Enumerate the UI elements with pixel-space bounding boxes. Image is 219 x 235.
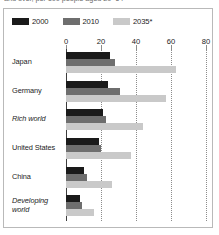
chart-legend: 200020102035* — [12, 15, 208, 27]
x-tick-mark — [101, 45, 102, 49]
x-tick-mark — [171, 45, 172, 49]
legend-item: 2010 — [63, 17, 100, 26]
bar — [66, 195, 80, 202]
category-label: China — [12, 173, 66, 182]
legend-label: 2035* — [133, 17, 152, 26]
legend-item: 2000 — [12, 17, 49, 26]
clipped-caption: and over, per 100 people aged 20–64 — [4, 0, 215, 4]
x-tick-mark — [206, 45, 207, 49]
bar — [66, 59, 115, 66]
bar-group — [66, 138, 206, 159]
legend-label: 2010 — [83, 17, 100, 26]
bar — [66, 88, 120, 95]
bar-group — [66, 195, 206, 216]
legend-label: 2000 — [32, 17, 49, 26]
category-label: Japan — [12, 58, 66, 67]
category-label: United States — [12, 144, 66, 153]
bar — [66, 209, 94, 216]
bar — [66, 109, 103, 116]
bar — [66, 202, 82, 209]
x-tick-mark — [66, 45, 67, 49]
legend-item: 2035* — [113, 17, 152, 26]
bar — [66, 81, 108, 88]
legend-swatch-2035 — [113, 18, 130, 25]
bar — [66, 181, 112, 188]
bar-group — [66, 167, 206, 188]
bar-group — [66, 81, 206, 102]
category-label: Developing world — [12, 197, 52, 214]
plot-area — [66, 49, 206, 221]
bar — [66, 167, 84, 174]
chart-panel: 200020102035* 020406080 JapanGermanyRich… — [3, 8, 213, 228]
category-label: Germany — [12, 87, 66, 96]
bar — [66, 52, 110, 59]
legend-swatch-2010 — [63, 18, 80, 25]
bar — [66, 145, 101, 152]
bar-group — [66, 109, 206, 130]
x-axis-tick-labels: 020406080 — [66, 37, 216, 48]
bar — [66, 116, 106, 123]
bar — [66, 152, 131, 159]
bar — [66, 174, 87, 181]
category-label: Rich world — [12, 115, 66, 124]
bar — [66, 95, 166, 102]
legend-swatch-2000 — [12, 18, 29, 25]
bar-group — [66, 52, 206, 73]
gridline — [206, 49, 207, 221]
bar — [66, 66, 176, 73]
bar — [66, 123, 143, 130]
bar — [66, 138, 99, 145]
category-axis-labels: JapanGermanyRich worldUnited StatesChina… — [12, 49, 66, 221]
x-tick-mark — [136, 45, 137, 49]
